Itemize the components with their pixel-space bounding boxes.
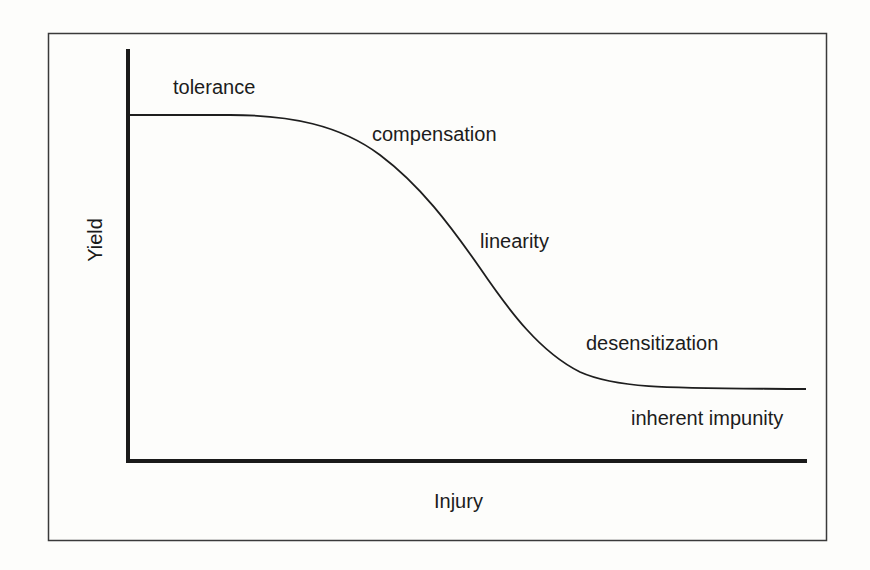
annotation-compensation: compensation bbox=[372, 124, 497, 144]
diagram-canvas bbox=[0, 0, 870, 570]
y-axis-label: Yield bbox=[85, 218, 105, 262]
yield-injury-diagram: tolerance compensation linearity desensi… bbox=[0, 0, 870, 570]
outer-frame bbox=[49, 34, 827, 541]
annotation-inherent-impunity: inherent impunity bbox=[631, 408, 783, 428]
annotation-linearity: linearity bbox=[480, 231, 549, 251]
x-axis-label: Injury bbox=[434, 491, 483, 511]
annotation-tolerance: tolerance bbox=[173, 77, 255, 97]
annotation-desensitization: desensitization bbox=[586, 333, 718, 353]
